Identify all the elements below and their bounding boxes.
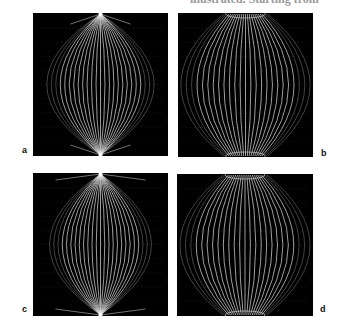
panel-d (177, 174, 313, 316)
meridian-grid (177, 174, 313, 316)
meridian-grid (33, 13, 168, 156)
panel-b (178, 13, 313, 157)
panel-label-c: c (22, 304, 27, 314)
clipped-caption-text: illustrated. Starting from (190, 0, 339, 4)
panel-label-d: d (320, 304, 326, 314)
panel-label-a: a (22, 145, 27, 155)
panel-label-b: b (321, 148, 327, 158)
panel-c (33, 173, 168, 316)
panel-a (33, 13, 168, 156)
meridian-grid (33, 173, 168, 316)
meridian-grid (178, 13, 313, 157)
